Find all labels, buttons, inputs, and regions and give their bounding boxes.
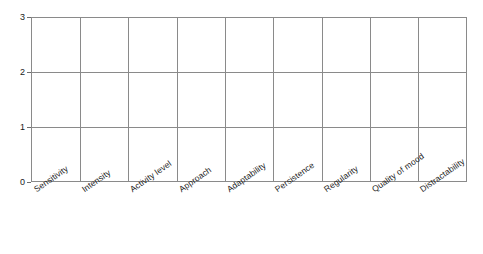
y-tick-label-3: 3 (5, 13, 25, 22)
gridline-horizontal-2 (32, 72, 466, 73)
y-axis: 3 2 1 0 (0, 17, 25, 182)
gridline-vertical-7 (370, 18, 371, 181)
y-tick-label-2: 2 (5, 68, 25, 77)
gridline-vertical-2 (128, 18, 129, 181)
plot-area (31, 17, 467, 182)
x-axis-labels: Sensitivity Intensity Activity level App… (31, 182, 467, 254)
chart-container: 3 2 1 0 Sensitivity Intensity Activity l… (0, 0, 483, 254)
y-tick-label-0: 0 (5, 178, 25, 187)
gridline-vertical-6 (322, 18, 323, 181)
y-tick-label-1: 1 (5, 123, 25, 132)
gridline-vertical-1 (80, 18, 81, 181)
gridline-vertical-5 (273, 18, 274, 181)
gridline-vertical-3 (177, 18, 178, 181)
gridline-horizontal-1 (32, 127, 466, 128)
gridline-vertical-4 (225, 18, 226, 181)
